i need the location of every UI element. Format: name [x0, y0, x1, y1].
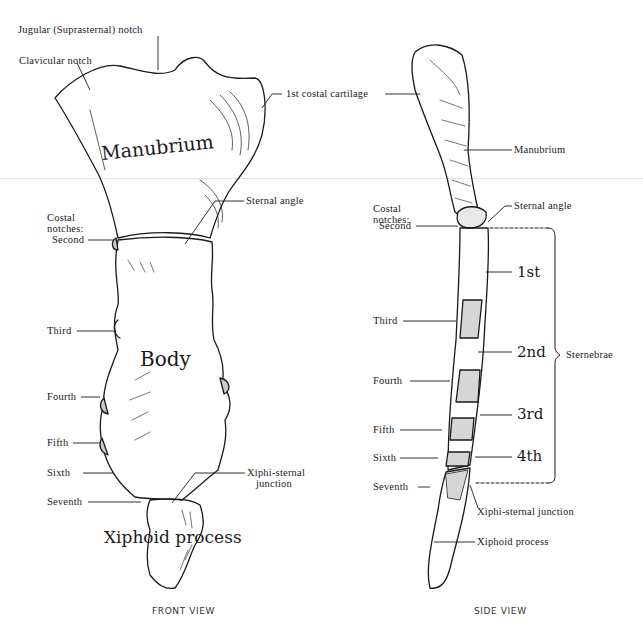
- label-fifth-side: Fifth: [373, 424, 394, 436]
- label-sternebra-3rd: 3rd: [517, 405, 543, 423]
- label-sternal-angle-side: Sternal angle: [514, 200, 572, 212]
- label-sternebrae: Sternebrae: [566, 349, 613, 361]
- label-third-front: Third: [47, 325, 71, 337]
- label-third-side: Third: [373, 315, 397, 327]
- side-sternebra-1: [460, 300, 482, 338]
- label-xiphisternal-side: Xiphi-sternal junction: [477, 506, 574, 518]
- label-sixth-side: Sixth: [373, 452, 396, 464]
- label-fourth-front: Fourth: [47, 391, 76, 403]
- label-second-front: Second: [52, 234, 84, 246]
- side-sternebra-2: [456, 370, 480, 402]
- label-fifth-front: Fifth: [47, 437, 68, 449]
- caption-side-view: SIDE VIEW: [474, 606, 527, 616]
- side-manubrium-outline: [412, 45, 478, 216]
- leader-sternal-angle-side: [488, 206, 512, 222]
- label-xiphisternal-front-2: junction: [256, 478, 292, 490]
- sternum-diagram: Jugular (Suprasternal) notch Clavicular …: [0, 0, 643, 637]
- label-clavicular-notch: Clavicular notch: [19, 55, 92, 67]
- front-notch-fifth: [100, 438, 108, 455]
- label-xiphoid-side: Xiphoid process: [477, 536, 549, 548]
- label-first-costal-cartilage: 1st costal cartilage: [286, 88, 368, 100]
- side-sternebra-4: [446, 452, 470, 466]
- label-second-side: Second: [379, 220, 411, 232]
- label-sternebra-4th: 4th: [517, 447, 542, 465]
- label-sixth-front: Sixth: [47, 467, 70, 479]
- label-sternal-angle-front: Sternal angle: [246, 195, 304, 207]
- caption-front-view: FRONT VIEW: [152, 606, 215, 616]
- region-title-xiphoid: Xiphoid process: [104, 527, 242, 547]
- leader-xiphisternal-side: [470, 485, 478, 508]
- label-seventh-front: Seventh: [47, 496, 82, 508]
- label-seventh-side: Seventh: [373, 481, 408, 493]
- front-notch-right-4: [220, 378, 229, 394]
- side-sternebra-3: [450, 418, 474, 440]
- label-manubrium-side: Manubrium: [514, 144, 565, 156]
- label-sternebra-2nd: 2nd: [517, 343, 546, 361]
- label-jugular-notch: Jugular (Suprasternal) notch: [18, 24, 143, 36]
- label-sternebra-1st: 1st: [517, 263, 540, 281]
- leader-clavicular-notch: [77, 63, 90, 90]
- label-fourth-side: Fourth: [373, 375, 402, 387]
- region-title-body: Body: [140, 347, 191, 371]
- side-sternal-angle-disc: [457, 207, 486, 228]
